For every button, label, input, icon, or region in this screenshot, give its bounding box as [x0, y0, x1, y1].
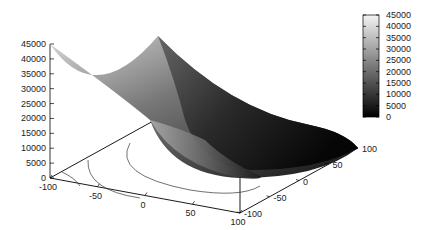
z-tick-label: 20000: [21, 113, 46, 123]
plot-canvas: 4500040000350003000025000200001500010000…: [0, 0, 429, 230]
y-tick-label: 50: [333, 160, 343, 170]
colorbar-tick-label: 45000: [386, 10, 411, 20]
z-tick-label: 25000: [21, 99, 46, 109]
colorbar-tick-label: 10000: [386, 89, 411, 99]
z-tick-label: 35000: [21, 69, 46, 79]
colorbar-tick-label: 20000: [386, 67, 411, 77]
z-tick-label: 10000: [21, 143, 46, 153]
z-tick-label: 5000: [26, 158, 46, 168]
colorbar-tick-label: 40000: [386, 21, 411, 31]
colorbar-tick-label: 5000: [386, 101, 406, 111]
y-tick-label: 0: [303, 177, 308, 187]
z-axis: 4500040000350003000025000200001500010000…: [21, 39, 54, 183]
x-tick-label: -100: [39, 182, 57, 192]
x-tick-label: 0: [140, 200, 145, 210]
x-tick-label: -50: [89, 191, 102, 201]
colorbar-tick-label: 25000: [386, 55, 411, 65]
colorbar-tick-label: 30000: [386, 44, 411, 54]
z-tick-label: 40000: [21, 54, 46, 64]
z-tick-label: 15000: [21, 128, 46, 138]
z-tick-label: 30000: [21, 84, 46, 94]
y-tick-label: -50: [274, 193, 287, 203]
colorbar-tick-label: 35000: [386, 33, 411, 43]
y-tick-label: -100: [244, 209, 262, 219]
surface-plot: 4500040000350003000025000200001500010000…: [0, 0, 429, 230]
x-axis-labels: -100-50050100: [39, 175, 246, 227]
colorbar-tick-label: 0: [386, 112, 391, 122]
y-tick-label: 100: [362, 144, 377, 154]
x-tick-label: 50: [185, 208, 195, 218]
surface: [50, 36, 358, 179]
colorbar: 4500040000350003000025000200001500010000…: [363, 10, 411, 122]
z-tick-label: 45000: [21, 39, 46, 49]
colorbar-tick-label: 15000: [386, 78, 411, 88]
